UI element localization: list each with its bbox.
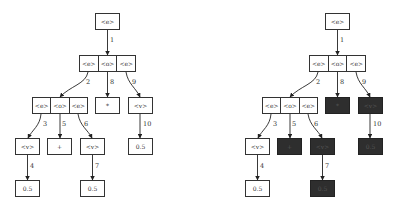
edge-label: 6 xyxy=(314,120,318,128)
node-cell: 0.5 xyxy=(246,181,269,196)
tree-node-n05b: 0.5 xyxy=(80,180,105,197)
tree-node-n05a: 0.5 xyxy=(245,180,270,197)
tree-node-v1: <v> xyxy=(15,138,40,155)
node-cell: 0.5 xyxy=(311,181,334,196)
edge-label: 10 xyxy=(373,120,381,128)
node-cell: <v> xyxy=(129,98,152,113)
tree-node-root: <e> xyxy=(95,13,120,30)
edge-label: 5 xyxy=(62,120,66,128)
tree-node-r3c: <v> xyxy=(128,97,153,114)
tree-node-plus: + xyxy=(47,138,72,155)
edge-label: 3 xyxy=(273,120,277,128)
edge-label: 1 xyxy=(340,36,344,44)
node-cell: <e> xyxy=(33,98,50,113)
tree-node-plus: + xyxy=(277,138,302,155)
node-cell: <v> xyxy=(81,139,104,154)
node-cell: <v> xyxy=(311,139,334,154)
edge-label: 4 xyxy=(30,162,34,170)
edge-label: 5 xyxy=(292,120,296,128)
node-cell: <o> xyxy=(98,56,117,71)
edge-label: 4 xyxy=(260,162,264,170)
node-cell: + xyxy=(278,139,301,154)
edge-arrow xyxy=(290,72,318,97)
edge-label: 3 xyxy=(43,120,47,128)
node-cell: <e> xyxy=(263,98,280,113)
edge-label: 7 xyxy=(95,162,99,170)
node-cell: <o> xyxy=(50,98,68,113)
tree-node-v2: <v> xyxy=(310,138,335,155)
node-cell: + xyxy=(48,139,71,154)
tree-node-v1: <v> xyxy=(245,138,270,155)
node-cell: 0.5 xyxy=(16,181,39,196)
node-cell: <e> xyxy=(116,56,135,71)
node-cell: 0.5 xyxy=(359,139,382,154)
tree-node-r3a: <e><o><e> xyxy=(32,97,88,114)
syntax-tree-original: 12893561047<e><e><o><e><e><o><e>*<v><v>+… xyxy=(0,0,195,208)
node-cell: * xyxy=(96,98,119,113)
node-cell: <e> xyxy=(326,14,349,29)
node-cell: <e> xyxy=(346,56,365,71)
edge-label: 2 xyxy=(316,78,320,86)
edge-label: 6 xyxy=(84,120,88,128)
edge-arrow xyxy=(28,114,41,138)
tree-node-r2: <e><o><e> xyxy=(309,55,366,72)
tree-node-r2: <e><o><e> xyxy=(79,55,136,72)
node-cell: <v> xyxy=(16,139,39,154)
node-cell: * xyxy=(326,98,349,113)
node-cell: <e> xyxy=(310,56,328,71)
tree-node-mul: * xyxy=(325,97,350,114)
tree-node-n05c: 0.5 xyxy=(358,138,383,155)
node-cell: 0.5 xyxy=(129,139,152,154)
node-cell: <e> xyxy=(299,98,317,113)
edge-label: 8 xyxy=(110,78,114,86)
node-cell: <e> xyxy=(69,98,87,113)
edge-label: 7 xyxy=(325,162,329,170)
tree-node-r3a: <e><o><e> xyxy=(262,97,318,114)
tree-node-v2: <v> xyxy=(80,138,105,155)
edge-label: 8 xyxy=(340,78,344,86)
tree-node-n05c: 0.5 xyxy=(128,138,153,155)
syntax-tree-highlighted: 12893561047<e><e><o><e><e><o><e>*<v><v>+… xyxy=(230,0,395,208)
tree-node-n05b: 0.5 xyxy=(310,180,335,197)
node-cell: <e> xyxy=(96,14,119,29)
edge-label: 9 xyxy=(362,78,366,86)
edge-label: 9 xyxy=(132,78,136,86)
tree-node-mul: * xyxy=(95,97,120,114)
node-cell: <o> xyxy=(328,56,347,71)
node-cell: <o> xyxy=(280,98,298,113)
node-cell: <v> xyxy=(246,139,269,154)
tree-node-root: <e> xyxy=(325,13,350,30)
edge-arrow xyxy=(60,72,88,97)
tree-node-r3c: <v> xyxy=(358,97,383,114)
node-cell: <e> xyxy=(80,56,98,71)
edge-label: 10 xyxy=(143,120,151,128)
edge-label: 2 xyxy=(86,78,90,86)
tree-node-n05a: 0.5 xyxy=(15,180,40,197)
node-cell: 0.5 xyxy=(81,181,104,196)
edge-label: 1 xyxy=(110,36,114,44)
node-cell: <v> xyxy=(359,98,382,113)
edge-arrow xyxy=(258,114,271,138)
